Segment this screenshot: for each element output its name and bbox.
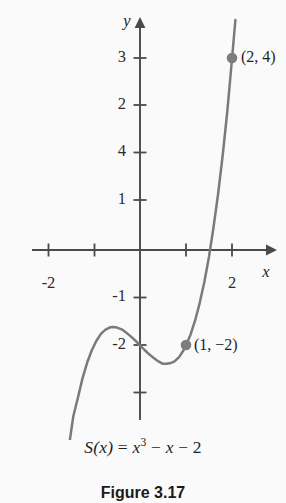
x-axis-label: x <box>261 262 270 281</box>
y-tick-label-2: 4 <box>118 141 126 160</box>
point-1-neg2-marker <box>181 340 192 351</box>
y-tick-label-3: 2 <box>118 94 126 113</box>
plot-background <box>0 0 286 440</box>
equation-term3: 2 <box>193 437 202 457</box>
point-2-4-label: (2, 4) <box>241 48 276 66</box>
function-equation: S(x) = x3 − x − 2 <box>0 437 286 458</box>
equation-op1: − <box>151 437 161 457</box>
equation-term2: x <box>166 437 174 457</box>
x-tick-label--2: -2 <box>42 273 56 292</box>
figure-container: -2 2 3 2 4 1 -1 -2 y x (2, 4) (1, −2) S(… <box>0 0 286 503</box>
point-2-4-marker <box>227 53 238 64</box>
x-tick-label-2: 2 <box>228 273 236 292</box>
y-tick-label-4: 3 <box>118 47 126 66</box>
y-axis-label: y <box>121 11 131 30</box>
equation-lhs: S(x) <box>84 437 113 457</box>
equation-op2: − <box>178 437 188 457</box>
y-tick-label--1: -1 <box>112 286 126 305</box>
equation-equals-sign: = <box>118 437 128 457</box>
figure-caption: Figure 3.17 <box>0 484 286 502</box>
point-1-neg2-label: (1, −2) <box>194 336 238 354</box>
graph-plot: -2 2 3 2 4 1 -1 -2 y x (2, 4) (1, −2) <box>0 0 286 440</box>
y-tick-label-1: 1 <box>118 189 126 208</box>
y-tick-label--2: -2 <box>112 334 126 353</box>
